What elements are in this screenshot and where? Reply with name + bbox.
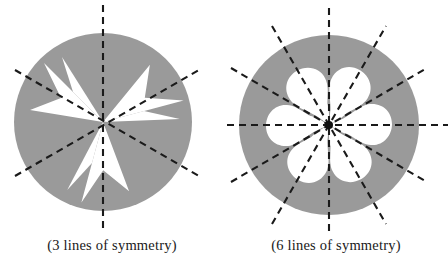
figure-caption-six-lines: (6 lines of symmetry) <box>224 236 448 254</box>
three-lines-symmetry-diagram <box>0 0 224 236</box>
center-hub-dot <box>325 121 333 129</box>
symmetry-figures-stage: (3 lines of symmetry) <box>0 0 448 265</box>
figure-caption-three-lines: (3 lines of symmetry) <box>0 236 224 254</box>
six-lines-symmetry-diagram <box>224 0 448 236</box>
figure-panel-six-lines: (6 lines of symmetry) <box>224 0 448 265</box>
figure-panel-three-lines: (3 lines of symmetry) <box>0 0 224 265</box>
